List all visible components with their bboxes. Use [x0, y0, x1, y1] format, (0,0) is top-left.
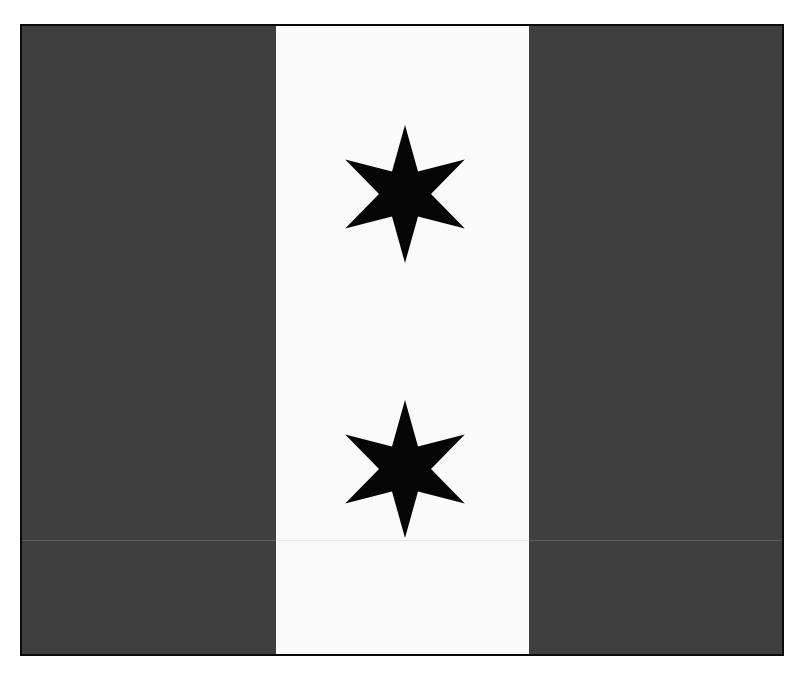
scan-artifact-line	[22, 540, 782, 541]
image-canvas	[0, 0, 801, 674]
left-stripe	[22, 26, 276, 654]
flag	[20, 24, 784, 656]
center-stripe	[276, 26, 529, 654]
right-stripe	[529, 26, 782, 654]
